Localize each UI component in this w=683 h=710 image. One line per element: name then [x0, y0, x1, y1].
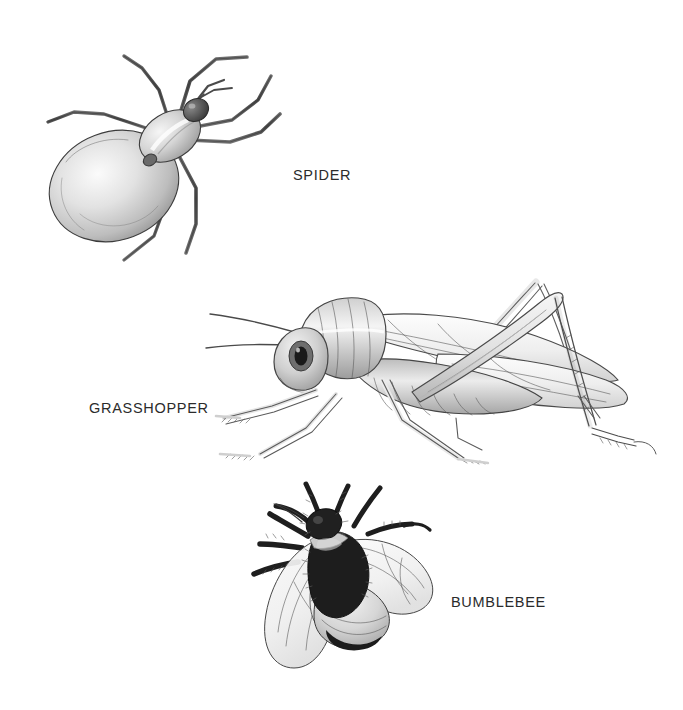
bumblebee-illustration	[232, 482, 450, 672]
label-grasshopper: GRASSHOPPER	[89, 401, 209, 416]
label-spider: SPIDER	[293, 168, 351, 183]
grasshopper-front-legs	[216, 390, 342, 460]
grasshopper-illustration	[206, 268, 668, 473]
bumblebee-eye	[313, 516, 323, 524]
illustration-plate: SPIDER	[0, 0, 683, 710]
spider-illustration	[18, 28, 283, 293]
grasshopper-head	[274, 328, 328, 393]
label-bumblebee: BUMBLEBEE	[451, 595, 546, 610]
